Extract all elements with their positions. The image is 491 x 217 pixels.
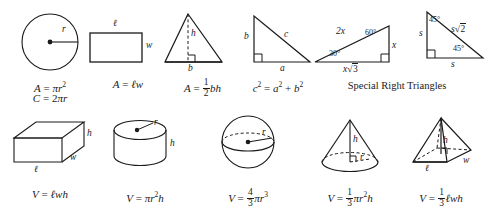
rectangle-length-label: ℓ xyxy=(113,18,117,28)
geometry-formula-sheet: r A = πr2 C = 2πr ℓ w A = ℓw xyxy=(0,0,491,217)
plus-sign: + xyxy=(285,82,291,94)
prism-vol-lhs: V xyxy=(32,188,39,200)
tri-30-60-90-hypotenuse-label: 2x xyxy=(336,26,345,36)
circle-area-exponent: 2 xyxy=(62,80,66,89)
cone-vol-fraction: 1 3 xyxy=(346,188,353,208)
prism-vol-rhs: ℓwh xyxy=(51,188,68,200)
rectangle-width-label: w xyxy=(146,40,152,50)
equals-sign: = xyxy=(264,82,270,94)
figure-sphere: r V = 4 3 πr3 xyxy=(198,108,298,217)
long-leg-radicand: 3 xyxy=(352,63,358,74)
tri-area-lhs: A xyxy=(184,82,191,94)
pyramid-drawing xyxy=(391,108,491,184)
cylinder-height-label: h xyxy=(170,138,175,148)
hyp-radicand: 2 xyxy=(460,23,466,34)
sphere-vol-numerator: 4 xyxy=(247,188,254,198)
pyr-vol-denominator: 3 xyxy=(438,198,445,209)
prism-height-label: h xyxy=(87,128,92,138)
tri-area-fraction: 1 2 xyxy=(203,78,210,98)
pyr-vol-fraction: 1 3 xyxy=(438,188,445,208)
sphere-vol-lhs: V xyxy=(228,192,235,204)
pyr-vol-numerator: 1 xyxy=(438,188,445,198)
cone-vol-numerator: 1 xyxy=(346,188,353,198)
pyramid-volume-formula: V = 1 3 ℓwh xyxy=(391,188,491,208)
sphere-vol-fraction: 4 3 xyxy=(247,188,254,208)
cyl-vol-height: h xyxy=(158,192,164,204)
circle-circ-lhs: C xyxy=(33,92,40,104)
right-tri-hyp-c-label: c xyxy=(284,29,288,39)
right-tri-leg-b-label: b xyxy=(244,31,249,41)
cone-volume-formula: V = 1 3 πr2h xyxy=(300,188,400,208)
tri-45-45-90-angle-top-label: 45° xyxy=(429,15,440,24)
triangle-base-label: b xyxy=(188,63,193,73)
cylinder-drawing xyxy=(95,108,195,184)
cylinder-radius-label: r xyxy=(154,117,158,127)
figure-special-right-triangles: 2x 60° 30° x x√3 s 45° 45° s√2 s Special… xyxy=(303,0,491,105)
equals-sign: = xyxy=(136,192,142,204)
sphere-drawing xyxy=(198,108,298,184)
sphere-radius-label: r xyxy=(262,127,266,137)
prism-volume-formula: V = ℓwh xyxy=(0,188,100,201)
prism-width-label: w xyxy=(70,152,76,162)
tri-30-60-90-angle-30-label: 30° xyxy=(329,49,340,58)
cyl-vol-lhs: V xyxy=(126,192,133,204)
pyr-vol-rhs: ℓwh xyxy=(445,192,462,204)
figure-cone: h r V = 1 3 πr2h xyxy=(300,108,400,217)
equals-sign: = xyxy=(122,78,128,90)
tri-45-45-90-angle-bottom-label: 45° xyxy=(453,44,464,53)
equals-sign: = xyxy=(43,92,49,104)
cylinder-volume-formula: V = πr2h xyxy=(95,188,195,205)
tri-45-45-90-leg-left-label: s xyxy=(419,28,423,38)
figure-pyramid: h w ℓ V = 1 3 ℓwh xyxy=(391,108,491,217)
pyth-a-exponent: 2 xyxy=(279,80,283,89)
pyramid-length-label: ℓ xyxy=(425,163,429,173)
tri-area-rhs: bh xyxy=(210,82,221,94)
cone-height-label: h xyxy=(353,134,358,144)
sphere-vol-denominator: 3 xyxy=(247,198,254,209)
rectangular-prism-drawing xyxy=(0,108,100,184)
special-right-triangles-caption: Special Right Triangles xyxy=(303,80,491,91)
equals-sign: = xyxy=(238,192,244,204)
right-tri-leg-a-label: a xyxy=(280,63,285,73)
sphere-volume-formula: V = 4 3 πr3 xyxy=(198,188,298,208)
tri-30-60-90-long-leg-label: x√3 xyxy=(343,64,358,74)
pyramid-height-label: h xyxy=(443,135,448,145)
equals-sign: = xyxy=(42,188,48,200)
equals-sign: = xyxy=(193,82,199,94)
tri-area-denominator: 2 xyxy=(203,88,210,99)
prism-length-label: ℓ xyxy=(34,164,38,174)
tri-45-45-90-hypotenuse-label: s√2 xyxy=(451,24,466,34)
rect-area-lhs: A xyxy=(113,78,120,90)
pyth-lhs-exponent: 2 xyxy=(258,80,262,89)
tri-45-45-90-leg-bottom-label: s xyxy=(451,59,455,69)
cone-vol-denominator: 3 xyxy=(346,198,353,209)
figure-cylinder: r h V = πr2h xyxy=(95,108,195,217)
tri-30-60-90-angle-60-label: 60° xyxy=(365,28,376,37)
pyramid-width-label: w xyxy=(463,155,469,165)
tri-30-60-90-short-leg-label: x xyxy=(392,40,396,50)
tri-area-numerator: 1 xyxy=(203,78,210,88)
circle-radius-label: r xyxy=(62,24,66,34)
equals-sign: = xyxy=(429,192,435,204)
circle-circ-var: r xyxy=(63,92,67,104)
pyr-vol-lhs: V xyxy=(419,192,426,204)
triangle-height-label: h xyxy=(191,28,196,38)
cone-radius-label: r xyxy=(360,152,364,162)
figure-rectangular-prism: h w ℓ V = ℓwh xyxy=(0,108,100,217)
cone-vol-lhs: V xyxy=(327,192,334,204)
cone-drawing xyxy=(300,108,400,184)
equals-sign: = xyxy=(337,192,343,204)
rect-area-rhs: ℓw xyxy=(131,78,143,90)
cone-vol-height: h xyxy=(367,192,373,204)
sphere-vol-exponent: 3 xyxy=(264,190,268,199)
